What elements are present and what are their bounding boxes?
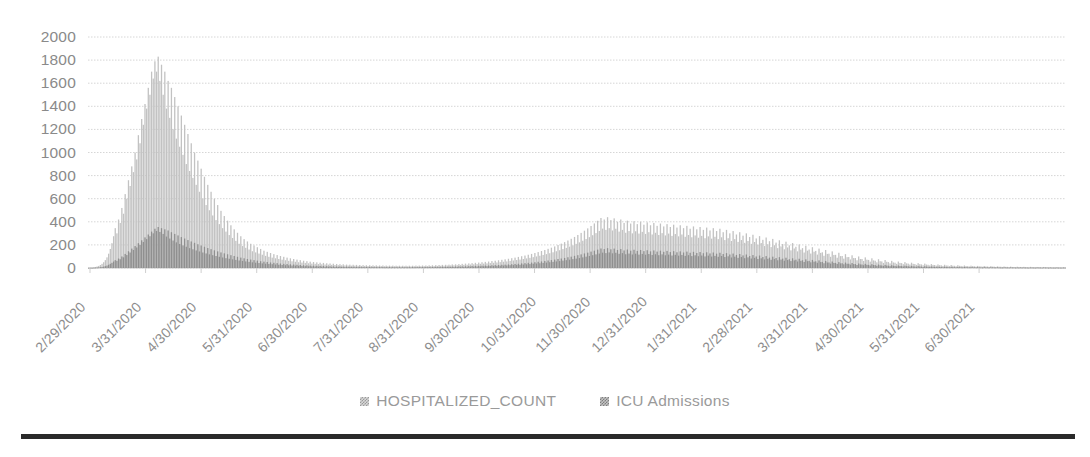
bar (766, 256, 767, 268)
bar (462, 266, 463, 268)
bar (998, 268, 999, 269)
bar (519, 265, 520, 268)
bar (1060, 268, 1061, 269)
bar (361, 267, 362, 268)
bar (230, 255, 231, 268)
bar (1020, 268, 1021, 269)
bar (779, 257, 780, 268)
bar (154, 229, 155, 268)
bar (275, 265, 276, 268)
bar (326, 266, 327, 268)
bar (808, 261, 809, 268)
bar (285, 265, 286, 268)
x-axis-tick-label: 10/31/2020 (477, 293, 539, 355)
bar (377, 267, 378, 268)
bar (929, 267, 930, 268)
bar (903, 267, 904, 269)
bar (805, 259, 806, 268)
bar (554, 260, 555, 268)
bar (987, 267, 988, 268)
bar (158, 227, 159, 268)
bar (513, 265, 514, 268)
bar (400, 267, 401, 268)
bar (105, 266, 106, 268)
bar (138, 243, 139, 268)
bar (691, 256, 692, 268)
bar (156, 231, 157, 268)
bar (642, 254, 643, 268)
bar (665, 255, 666, 268)
bar (1058, 268, 1059, 269)
y-axis-tick-label: 1400 (18, 98, 76, 114)
bar (318, 267, 319, 268)
bar (300, 265, 301, 268)
bar (316, 266, 317, 268)
x-axis-tick-label: 11/30/2020 (532, 294, 594, 356)
bar (536, 264, 537, 269)
bar (919, 267, 920, 269)
bar (960, 267, 961, 268)
bar (609, 252, 610, 268)
legend-item-icu-admissions[interactable]: ICU Admissions (600, 392, 730, 410)
bar (143, 242, 144, 268)
bar (965, 267, 966, 268)
bar (338, 267, 339, 268)
bar (306, 265, 307, 268)
bar (688, 255, 689, 268)
bar (547, 260, 548, 268)
bar (889, 266, 890, 268)
bar (685, 256, 686, 268)
bar (458, 266, 459, 268)
bar (1041, 268, 1042, 269)
bar (151, 232, 152, 268)
bar (209, 254, 210, 268)
bar (780, 260, 781, 268)
bar (896, 266, 897, 268)
bar (315, 267, 316, 269)
bar (1051, 268, 1052, 269)
bar (772, 257, 773, 268)
legend-item-hospitalized-count[interactable]: HOSPITALIZED_COUNT (360, 392, 556, 410)
bar (237, 257, 238, 268)
bar (1036, 268, 1037, 269)
bar (630, 251, 631, 268)
bar (652, 255, 653, 268)
bar (129, 253, 130, 268)
bar (435, 267, 436, 268)
bar (693, 252, 694, 268)
bar (481, 266, 482, 268)
bar (192, 249, 193, 268)
bar (795, 260, 796, 268)
bar (1010, 267, 1011, 268)
bar (521, 263, 522, 268)
bar (159, 232, 160, 268)
bar (202, 253, 203, 268)
bar (235, 260, 236, 268)
bar (724, 257, 725, 268)
bar (501, 265, 502, 268)
bar (210, 249, 211, 268)
bar (936, 267, 937, 268)
bar (242, 261, 243, 268)
bar (433, 267, 434, 268)
bar (749, 256, 750, 268)
bar (161, 228, 162, 268)
bar (288, 265, 289, 268)
bar (207, 248, 208, 268)
bar (473, 267, 474, 268)
bar (673, 251, 674, 268)
bar (273, 263, 274, 268)
bar (980, 267, 981, 268)
bar (101, 267, 102, 268)
bar (88, 268, 89, 269)
bar (924, 266, 925, 268)
bar (564, 258, 565, 268)
y-axis-tick-label: 200 (18, 237, 76, 253)
bar (123, 257, 124, 268)
bar (333, 266, 334, 268)
bar (625, 254, 626, 268)
bar (544, 261, 545, 268)
bar (985, 267, 986, 268)
bar (263, 262, 264, 268)
bar (632, 254, 633, 268)
